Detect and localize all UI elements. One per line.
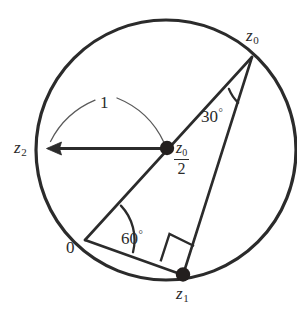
geometry-svg [0,0,297,313]
diagram-canvas: z0 z1 z2 0 1 30° 60° z0 2 [0,0,297,313]
label-radius-length: 1 [100,94,109,111]
center-point-dot [160,141,174,155]
fraction-denominator: 2 [174,160,189,177]
radius-measure-arc-right [117,98,164,143]
fraction-numerator: z0 [174,140,189,159]
label-center-z0-over-2: z0 2 [174,140,189,177]
chord-z1-to-z0 [183,57,252,275]
label-z0: z0 [246,27,259,46]
label-angle-30: 30° [201,107,223,125]
radius-arrow-head [47,142,62,155]
angle-arc-30 [229,89,238,103]
z1-point-dot [176,267,190,281]
label-z2: z2 [14,139,27,158]
label-z1: z1 [176,285,189,304]
radius-measure-arc-left [51,100,96,141]
label-angle-60: 60° [121,229,143,247]
label-origin: 0 [66,239,75,256]
